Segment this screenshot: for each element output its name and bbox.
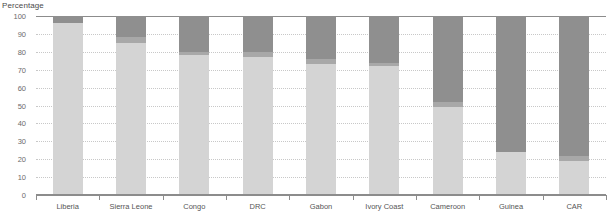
x-axis: LiberiaSierra LeoneCongoDRCGabonIvory Co… xyxy=(36,195,606,214)
y-axis-tick-label: 60 xyxy=(0,83,26,92)
y-axis-tick-label: 70 xyxy=(0,65,26,74)
bar-stack[interactable] xyxy=(306,16,336,195)
bar-stack[interactable] xyxy=(116,16,146,195)
x-axis-category-label: Congo xyxy=(183,202,205,211)
y-axis-tick-label: 20 xyxy=(0,155,26,164)
y-axis-tick-label: 100 xyxy=(0,12,26,21)
bar-segment[interactable] xyxy=(243,16,273,52)
x-axis-tick-mark xyxy=(543,195,544,200)
bar-segment[interactable] xyxy=(496,152,526,195)
bar-segment[interactable] xyxy=(433,107,463,195)
bar-group[interactable] xyxy=(416,16,479,195)
bar-stack[interactable] xyxy=(559,16,589,195)
x-axis-category-label: Liberia xyxy=(56,202,79,211)
bar-segment[interactable] xyxy=(559,161,589,195)
bar-segment[interactable] xyxy=(306,16,336,59)
x-axis-category-label: Gabon xyxy=(310,202,333,211)
bar-segment[interactable] xyxy=(306,64,336,195)
bar-segment[interactable] xyxy=(243,57,273,195)
bar-segment[interactable] xyxy=(496,16,526,152)
x-axis-tick-mark xyxy=(99,195,100,200)
x-axis-tick-mark xyxy=(353,195,354,200)
bar-segment[interactable] xyxy=(559,16,589,156)
x-axis-end-tick xyxy=(606,195,607,200)
x-axis-tick-mark xyxy=(36,195,37,200)
bar-segment[interactable] xyxy=(369,66,399,195)
bar-group[interactable] xyxy=(36,16,99,195)
x-axis-tick-mark xyxy=(289,195,290,200)
bar-segment[interactable] xyxy=(116,16,146,37)
y-axis-tick-label: 40 xyxy=(0,119,26,128)
x-axis-category-label: DRC xyxy=(250,202,266,211)
bar-segment[interactable] xyxy=(179,52,209,56)
bar-group[interactable] xyxy=(99,16,162,195)
bar-stack[interactable] xyxy=(369,16,399,195)
bar-stack[interactable] xyxy=(496,16,526,195)
bar-group[interactable] xyxy=(543,16,606,195)
bar-segment[interactable] xyxy=(559,156,589,161)
bar-group[interactable] xyxy=(479,16,542,195)
bar-segment[interactable] xyxy=(243,52,273,57)
plot-area: 0102030405060708090100 xyxy=(36,16,606,195)
bar-segment[interactable] xyxy=(433,16,463,102)
bar-segment[interactable] xyxy=(116,37,146,42)
y-axis-tick-label: 90 xyxy=(0,29,26,38)
x-axis-tick-mark xyxy=(479,195,480,200)
y-axis-title: Percentage xyxy=(2,1,44,10)
bar-segment[interactable] xyxy=(369,16,399,63)
stacked-bar-chart: Percentage 0102030405060708090100 Liberi… xyxy=(0,0,610,214)
bar-stack[interactable] xyxy=(433,16,463,195)
y-axis-tick-label: 0 xyxy=(0,191,26,200)
bar-segment[interactable] xyxy=(53,23,83,195)
x-axis-category-label: Guinea xyxy=(499,202,523,211)
x-axis-tick-mark xyxy=(163,195,164,200)
bar-stack[interactable] xyxy=(179,16,209,195)
x-axis-category-label: Cameroon xyxy=(430,202,465,211)
x-axis-category-label: CAR xyxy=(566,202,582,211)
y-axis-tick-label: 80 xyxy=(0,47,26,56)
bar-segment[interactable] xyxy=(306,59,336,64)
bar-segment[interactable] xyxy=(179,16,209,52)
bar-segment[interactable] xyxy=(433,102,463,107)
bar-group[interactable] xyxy=(289,16,352,195)
bar-group[interactable] xyxy=(353,16,416,195)
bar-group[interactable] xyxy=(226,16,289,195)
bar-stack[interactable] xyxy=(243,16,273,195)
bar-stack[interactable] xyxy=(53,16,83,195)
x-axis-tick-mark xyxy=(416,195,417,200)
bar-segment[interactable] xyxy=(53,16,83,23)
x-axis-category-label: Ivory Coast xyxy=(365,202,403,211)
y-axis-tick-label: 10 xyxy=(0,173,26,182)
bar-segment[interactable] xyxy=(116,43,146,195)
bar-segment[interactable] xyxy=(179,55,209,195)
bars-layer xyxy=(36,16,606,195)
bar-group[interactable] xyxy=(163,16,226,195)
y-axis-tick-label: 50 xyxy=(0,101,26,110)
x-axis-category-label: Sierra Leone xyxy=(110,202,153,211)
bar-segment[interactable] xyxy=(369,63,399,67)
y-axis-tick-label: 30 xyxy=(0,137,26,146)
x-axis-tick-mark xyxy=(226,195,227,200)
